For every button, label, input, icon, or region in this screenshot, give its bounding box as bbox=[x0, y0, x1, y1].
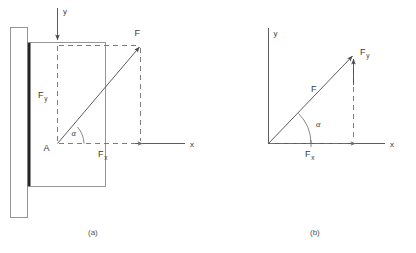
force-x-subscript-b: x bbox=[311, 154, 315, 161]
x-axis-label-b: x bbox=[390, 140, 394, 149]
y-axis-label-b: y bbox=[274, 29, 278, 38]
angle-arc-b bbox=[299, 114, 312, 144]
force-decomposition-figure: y x A α F F y F x (a) bbox=[0, 0, 416, 253]
force-x-subscript-a: x bbox=[104, 154, 108, 161]
angle-label-a: α bbox=[72, 128, 77, 138]
panel-b-group: y x α F F y F x (b) bbox=[269, 28, 395, 237]
plate-outline bbox=[31, 43, 106, 187]
caption-b: (b) bbox=[310, 228, 320, 237]
force-x-letter-b: F bbox=[305, 149, 311, 159]
wall-outline bbox=[11, 28, 28, 218]
angle-label-b: α bbox=[316, 119, 321, 129]
force-label-b: F bbox=[311, 84, 317, 94]
y-axis-label-a: y bbox=[63, 7, 67, 16]
force-vector-b bbox=[269, 56, 353, 144]
origin-point-label-a: A bbox=[44, 143, 50, 153]
force-y-subscript-b: y bbox=[366, 52, 370, 60]
force-y-letter-a: F bbox=[38, 90, 44, 100]
force-x-letter-a: F bbox=[98, 149, 104, 159]
force-y-letter-b: F bbox=[360, 47, 366, 57]
panel-a-group: y x A α F F y F x (a) bbox=[11, 7, 195, 237]
wall-support bbox=[11, 28, 31, 218]
caption-a: (a) bbox=[88, 228, 98, 237]
force-y-label-b: F y bbox=[360, 47, 370, 60]
force-label-a: F bbox=[135, 28, 141, 38]
force-x-label-b: F x bbox=[305, 149, 315, 161]
x-axis-label-a: x bbox=[190, 140, 194, 149]
